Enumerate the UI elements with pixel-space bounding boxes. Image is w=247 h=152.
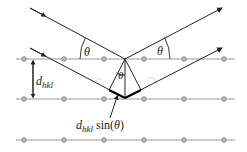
path-difference-label: dhkl sin(θ) — [76, 119, 124, 134]
theta-label-center: θ — [118, 70, 123, 81]
theta-label-left: θ — [84, 46, 90, 58]
pointer-arrow — [110, 97, 117, 118]
d-hkl-label: dhkl — [36, 75, 53, 90]
theta-label-right: θ — [157, 45, 163, 57]
reflected-rays — [125, 8, 222, 98]
atom-halos — [96, 51, 156, 83]
